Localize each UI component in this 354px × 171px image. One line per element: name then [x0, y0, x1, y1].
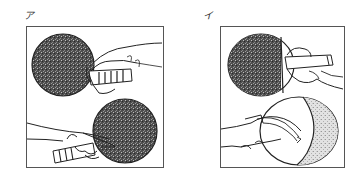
racket-top — [32, 34, 162, 96]
penhold-grip-illustration — [221, 27, 344, 167]
panel-penhold-grip — [220, 26, 345, 168]
racket-bottom — [27, 99, 157, 163]
racket-top — [221, 27, 343, 107]
racket-bottom — [221, 97, 341, 165]
panel-shakehand-grip — [26, 26, 164, 168]
panel-label-a: ア — [24, 7, 34, 22]
panel-label-i: イ — [203, 7, 213, 22]
shakehand-grip-illustration — [27, 27, 163, 167]
